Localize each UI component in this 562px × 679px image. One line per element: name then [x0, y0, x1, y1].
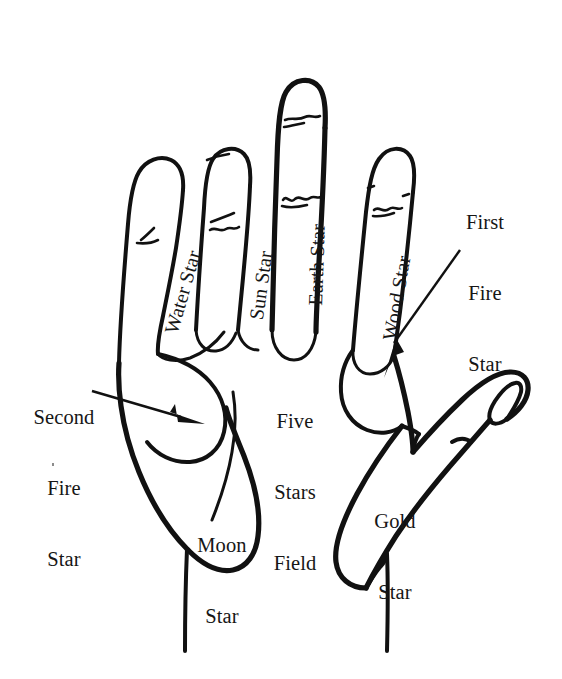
label-five-stars-field-line3: Field [258, 552, 332, 576]
label-first-fire-star-line2: Fire [437, 282, 533, 306]
label-moon-star-line1: Moon [183, 534, 261, 558]
label-second-fire-star-line2: Fire [12, 477, 116, 501]
label-gold-star-line2: Star [360, 581, 430, 605]
label-moon-star-line2: Star [183, 605, 261, 629]
label-first-fire-star-line1: First [437, 211, 533, 235]
label-first-fire-star-line3: Star [437, 353, 533, 377]
label-five-stars-field: Five Stars Field [258, 362, 332, 623]
label-five-stars-field-line2: Stars [258, 481, 332, 505]
label-gold-star: Gold Star [360, 462, 430, 652]
label-second-fire-star-line3: Star [12, 548, 116, 572]
finger-middle-earth-star [272, 80, 325, 360]
label-second-fire-star: Second Fire Star [12, 358, 116, 619]
label-earth-star: Earth Star [304, 224, 330, 306]
finger-ring-sun-star [196, 149, 258, 351]
label-gold-star-line1: Gold [360, 510, 430, 534]
scan-speck [52, 463, 54, 466]
label-moon-star: Moon Star [183, 486, 261, 676]
label-five-stars-field-line1: Five [258, 410, 332, 434]
hand-diagram: Water Star Sun Star Earth Star Wood Star… [0, 0, 562, 679]
label-second-fire-star-line1: Second [12, 406, 116, 430]
label-first-fire-star: First Fire Star [437, 163, 533, 424]
